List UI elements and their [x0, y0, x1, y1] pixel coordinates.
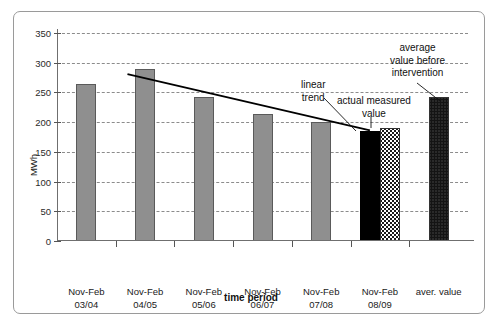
- annotation-actual-measured-value: actual measured value: [337, 95, 411, 120]
- y-tick-label: 0: [46, 236, 51, 247]
- y-tick-label: 150: [35, 146, 51, 157]
- bar: [429, 97, 449, 241]
- annotation-average-value-line2: value before: [390, 55, 445, 68]
- y-tick-mark: [54, 152, 61, 153]
- y-tick-label: 300: [35, 57, 51, 68]
- annotation-average-value-before-intervention: average value before intervention: [390, 42, 445, 80]
- y-tick-mark: [54, 241, 61, 242]
- y-tick-mark: [54, 92, 61, 93]
- y-tick-mark: [54, 63, 61, 64]
- x-tick-mark: [233, 241, 234, 247]
- bar: [194, 97, 214, 241]
- annotation-linear-trend-line1: linear: [301, 79, 325, 92]
- x-tick-mark: [174, 241, 175, 247]
- bar: [135, 69, 155, 241]
- x-tick-label-line2: 08/09: [334, 299, 426, 312]
- x-axis-line: [57, 240, 474, 241]
- y-axis-line: [57, 29, 58, 241]
- y-tick-mark: [54, 182, 61, 183]
- y-tick-label: 100: [35, 176, 51, 187]
- bar: [76, 84, 96, 241]
- annotation-average-value-line3: intervention: [390, 67, 445, 80]
- y-tick-label: 350: [35, 28, 51, 39]
- x-tick-mark: [116, 241, 117, 247]
- y-tick-label: 50: [40, 206, 51, 217]
- x-tick-label: aver. value: [393, 286, 485, 299]
- y-tick-mark: [54, 211, 61, 212]
- y-tick-label: 200: [35, 117, 51, 128]
- x-tick-label-line1: aver. value: [393, 286, 485, 299]
- annotation-linear-trend-line2: trend: [301, 92, 325, 105]
- y-tick-label: 250: [35, 87, 51, 98]
- bar: [253, 114, 273, 241]
- chart-figure: MWh time period 050100150200250300350 No…: [0, 0, 502, 329]
- gridline: [57, 92, 468, 93]
- annotation-linear-trend: linear trend: [301, 79, 325, 104]
- x-tick-mark: [351, 241, 352, 247]
- annotation-actual-measured-value-line2: value: [337, 108, 411, 121]
- x-tick-mark: [292, 241, 293, 247]
- annotation-average-value-line1: average: [390, 42, 445, 55]
- bar: [311, 122, 331, 241]
- x-tick-mark: [409, 241, 410, 247]
- annotation-actual-measured-value-line1: actual measured: [337, 95, 411, 108]
- y-tick-mark: [54, 122, 61, 123]
- bar: [360, 131, 380, 241]
- bar: [380, 128, 400, 242]
- y-tick-mark: [54, 33, 61, 34]
- gridline: [57, 33, 468, 34]
